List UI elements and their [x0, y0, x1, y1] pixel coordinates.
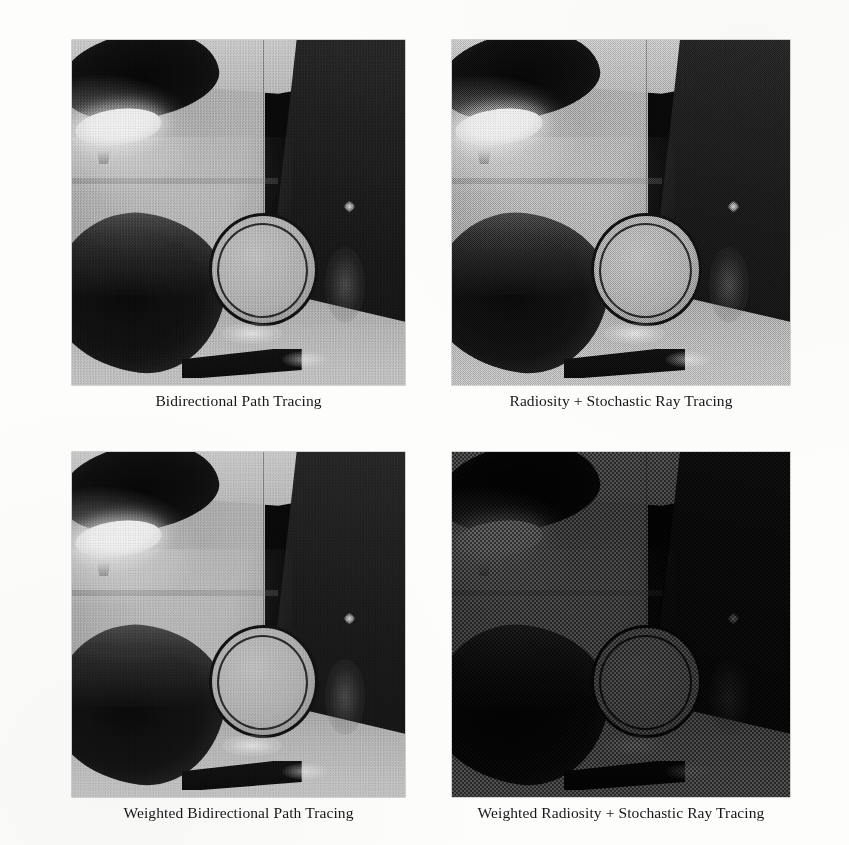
- rendered-image-radiosity-stochastic-ray-tracing: [452, 40, 790, 385]
- ring-caustic: [604, 323, 665, 344]
- glass-ring-inner: [217, 635, 309, 730]
- ring-caustic: [604, 735, 665, 756]
- rendered-image-weighted-bidirectional-path-tracing: [72, 452, 405, 797]
- figure-panel-top-right: Radiosity + Stochastic Ray Tracing: [452, 40, 790, 420]
- floor-box-highlight: [282, 351, 329, 368]
- wall-right-highlight: [709, 247, 750, 323]
- floor-box-highlight: [282, 763, 329, 780]
- ring-caustic: [222, 323, 282, 344]
- glass-ring-inner: [599, 635, 692, 730]
- scene-render: [452, 40, 790, 385]
- wall-right-highlight: [325, 247, 365, 323]
- glass-ring-inner: [599, 223, 692, 318]
- wall-right-highlight: [709, 659, 750, 735]
- floor-box-highlight: [665, 763, 712, 780]
- rendered-image-bidirectional-path-tracing: [72, 40, 405, 385]
- glass-ring-inner: [217, 223, 309, 318]
- wall-right-highlight: [325, 659, 365, 735]
- floor-box-highlight: [665, 351, 712, 368]
- figure-panel-bottom-right: Weighted Radiosity + Stochastic Ray Trac…: [452, 452, 790, 832]
- panel-caption-bottom-right: Weighted Radiosity + Stochastic Ray Trac…: [452, 804, 790, 822]
- scene-render: [72, 452, 405, 797]
- figure-page: Bidirectional Path Tracing: [0, 0, 849, 845]
- rendered-image-weighted-radiosity-stochastic-ray-tracing: [452, 452, 790, 797]
- panel-caption-bottom-left: Weighted Bidirectional Path Tracing: [72, 804, 405, 822]
- panel-caption-top-right: Radiosity + Stochastic Ray Tracing: [452, 392, 790, 410]
- figure-panel-top-left: Bidirectional Path Tracing: [72, 40, 405, 420]
- panel-caption-top-left: Bidirectional Path Tracing: [72, 392, 405, 410]
- figure-panel-bottom-left: Weighted Bidirectional Path Tracing: [72, 452, 405, 832]
- ring-caustic: [222, 735, 282, 756]
- scene-render: [72, 40, 405, 385]
- scene-render: [452, 452, 790, 797]
